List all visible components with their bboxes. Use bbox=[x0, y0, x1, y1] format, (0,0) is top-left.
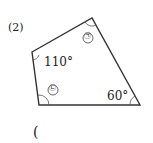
angle-label-110: 110° bbox=[44, 56, 73, 68]
problem-number: (2) bbox=[8, 22, 24, 33]
angle-marker-nieun: ㉡ bbox=[49, 85, 56, 92]
angle-arc-bottom-left bbox=[38, 95, 49, 105]
answer-paren: ( bbox=[33, 125, 38, 139]
angle-label-60: 60° bbox=[107, 90, 128, 102]
angle-marker-giyeok: ㉠ bbox=[84, 33, 91, 40]
angle-arc-bottom-right bbox=[130, 96, 135, 105]
